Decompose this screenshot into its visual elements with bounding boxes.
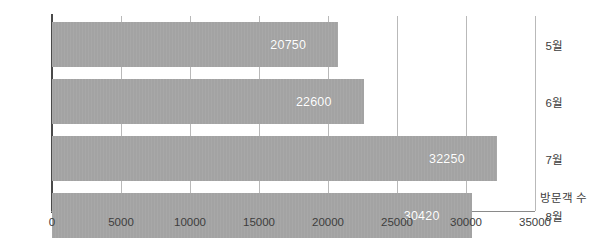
x-tick-label: 20000: [312, 216, 344, 228]
bar-value-label: 32250: [429, 152, 465, 166]
category-label: 6월: [523, 94, 563, 110]
bars-layer: 207505월226006월322507월304208월: [0, 0, 607, 251]
x-tick-label: 25000: [381, 216, 413, 228]
x-tick-label: 5000: [108, 216, 134, 228]
x-tick-label: 0: [49, 216, 55, 228]
x-tick-label: 10000: [174, 216, 206, 228]
bar-row: 32250: [52, 136, 535, 181]
bar-row: 20750: [52, 22, 535, 67]
x-tick-label: 30000: [450, 216, 482, 228]
bar-chart: 207505월226006월322507월304208월 05000100001…: [0, 0, 607, 251]
bar-row: 22600: [52, 79, 535, 124]
x-axis-title: 방문객 수: [540, 189, 587, 205]
x-tick-label: 35000: [519, 216, 551, 228]
bar-value-label: 22600: [296, 95, 332, 109]
category-label: 5월: [523, 37, 563, 53]
x-tick-label: 15000: [243, 216, 275, 228]
category-label: 7월: [523, 151, 563, 167]
bar-value-label: 20750: [270, 38, 306, 52]
